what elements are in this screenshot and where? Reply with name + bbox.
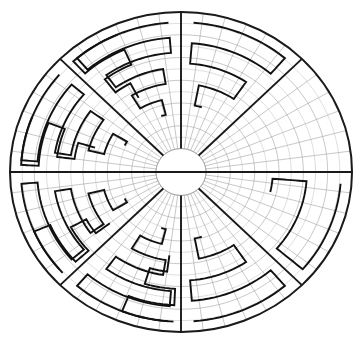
grid-radial-line — [205, 131, 346, 166]
polar-mandala-figure — [0, 0, 360, 344]
mandala-canvas — [0, 0, 360, 344]
grid-radial-line — [203, 184, 329, 252]
radial-spoke — [199, 59, 302, 156]
grid-radial-line — [187, 195, 225, 327]
grid-radial-line — [203, 92, 329, 160]
radial-spokes-layer — [10, 12, 352, 332]
meander-spiral-outer — [73, 35, 138, 98]
grid-radial-line — [33, 92, 159, 160]
grid-radial-line — [33, 184, 159, 252]
grid-radial-line — [187, 17, 225, 149]
grid-radial-line — [96, 33, 169, 151]
grid-radial-line — [96, 192, 169, 310]
grid-radial-line — [205, 178, 346, 213]
